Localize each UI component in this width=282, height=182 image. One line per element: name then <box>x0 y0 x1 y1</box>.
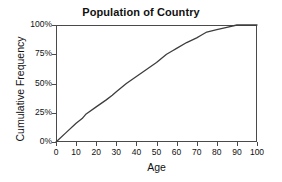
x-axis-tick-mark <box>96 142 97 146</box>
x-axis-tick-mark <box>157 142 158 146</box>
chart-container: Population of Country 0%25%50%75%100% 01… <box>0 0 282 182</box>
y-axis-title: Cumulative Frequency <box>14 26 26 152</box>
x-axis-tick-mark <box>197 142 198 146</box>
x-axis-tick-mark <box>56 142 57 146</box>
y-axis-tick-mark <box>52 84 56 85</box>
y-axis-tick-mark <box>52 25 56 26</box>
x-axis-tick-mark <box>76 142 77 146</box>
x-axis-tick-mark <box>177 142 178 146</box>
x-axis-tick-mark <box>237 142 238 146</box>
cumulative-frequency-line <box>56 25 257 142</box>
x-axis-tick-mark <box>217 142 218 146</box>
x-axis-title: Age <box>56 161 257 173</box>
y-axis-tick-mark <box>52 54 56 55</box>
x-axis-tick-label: 100 <box>245 147 269 157</box>
x-axis-tick-mark <box>257 142 258 146</box>
x-axis-tick-mark <box>116 142 117 146</box>
x-axis-tick-mark <box>136 142 137 146</box>
y-axis-tick-mark <box>52 113 56 114</box>
cumulative-frequency-line-plot <box>56 25 257 142</box>
